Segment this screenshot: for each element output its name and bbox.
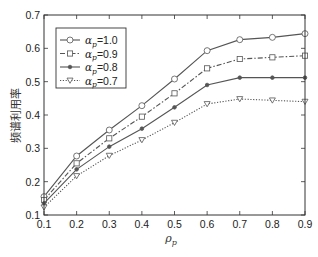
triangle-marker <box>172 120 178 125</box>
dot-marker <box>238 76 242 80</box>
circle-marker <box>74 153 80 159</box>
x-tick-label: 0.9 <box>298 218 313 230</box>
line-chart: 0.10.20.30.40.50.60.70.80.90.10.20.30.40… <box>0 0 318 257</box>
square-marker <box>67 51 72 56</box>
circle-marker <box>237 37 243 43</box>
y-axis-title: 频谱利用率 <box>9 88 23 143</box>
circle-marker <box>204 48 210 54</box>
square-marker <box>74 161 79 166</box>
x-axis-title-sub: p <box>172 238 177 247</box>
circle-marker <box>139 103 145 109</box>
circle-marker <box>106 127 112 133</box>
dot-marker <box>68 65 72 69</box>
x-axis-title: ρp <box>164 232 177 247</box>
x-tick-label: 0.4 <box>135 218 150 230</box>
dot-marker <box>75 168 79 172</box>
circle-marker <box>269 34 275 40</box>
y-tick-label: 0.2 <box>25 176 40 188</box>
dot-marker <box>271 76 275 80</box>
x-tick-label: 0.5 <box>167 218 182 230</box>
triangle-marker <box>106 153 112 158</box>
y-tick-label: 0.3 <box>25 142 40 154</box>
series-line <box>44 78 305 204</box>
x-tick-label: 0.8 <box>265 218 280 230</box>
legend: αp=1.0αp=0.9αp=0.8αp=0.7 <box>56 28 126 89</box>
dot-marker <box>140 127 144 131</box>
y-tick-label: 0.6 <box>25 42 40 54</box>
y-tick-label: 0.5 <box>25 76 40 88</box>
y-tick-label: 0.7 <box>25 9 40 21</box>
dot-marker <box>173 106 177 110</box>
series-line <box>44 99 305 207</box>
square-marker <box>139 114 144 119</box>
y-tick-label: 0.4 <box>25 109 40 121</box>
series-4 <box>41 97 308 211</box>
square-marker <box>107 136 112 141</box>
circle-marker <box>67 37 73 43</box>
square-marker <box>270 55 275 60</box>
x-tick-label: 0.7 <box>232 218 247 230</box>
square-marker <box>205 66 210 71</box>
square-marker <box>237 56 242 61</box>
x-tick-label: 0.6 <box>200 218 215 230</box>
dot-marker <box>107 145 111 149</box>
x-tick-label: 0.3 <box>102 218 117 230</box>
triangle-marker <box>237 97 243 102</box>
triangle-marker <box>139 138 145 143</box>
x-tick-label: 0.2 <box>69 218 84 230</box>
circle-marker <box>172 76 178 82</box>
y-tick-label: 0.1 <box>25 209 40 221</box>
dot-marker <box>205 83 209 87</box>
square-marker <box>172 91 177 96</box>
